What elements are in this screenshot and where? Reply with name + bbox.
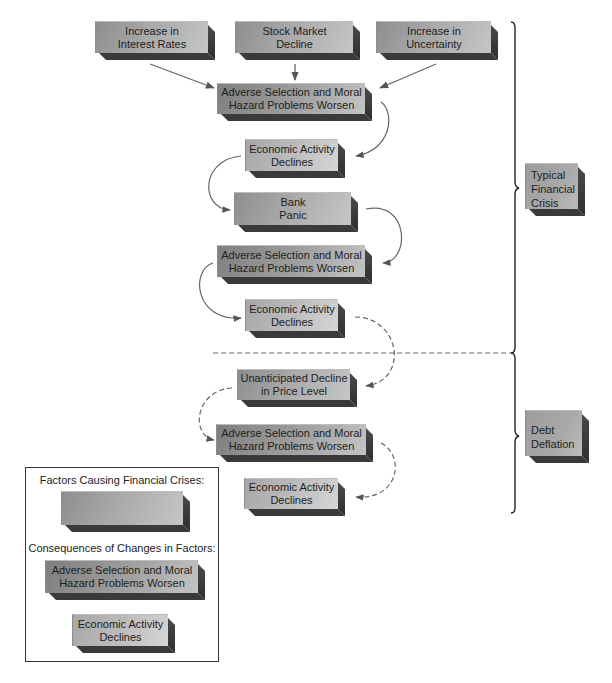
stage-label-typical-financial-crisis: TypicalFinancialCrisis: [525, 163, 578, 209]
legend-sample-economic-activity: Economic ActivityDeclines: [72, 614, 168, 646]
box-label-line: Adverse Selection and Moral: [221, 249, 362, 262]
legend-factors-title: Factors Causing Financial Crises:: [25, 474, 219, 486]
legend-sample-line: Adverse Selection and Moral: [52, 564, 193, 577]
arrow-bank-to-asmh2: [366, 208, 402, 263]
factor-box-uncertainty: Increase inUncertainty: [376, 21, 491, 53]
stage-label-line: Typical: [531, 168, 575, 182]
box-adverse-selection-1: Adverse Selection and MoralHazard Proble…: [217, 83, 365, 114]
box-economic-activity-1: Economic ActivityDeclines: [245, 139, 338, 171]
arrow-ead2-to-udpl: [355, 317, 394, 386]
box-economic-activity-2: Economic ActivityDeclines: [245, 299, 338, 331]
stage-label-line: Crisis: [531, 196, 575, 210]
factor-label-line: Increase in: [406, 25, 462, 38]
box-label-line: Panic: [279, 209, 307, 222]
factor-label-line: Increase in: [118, 25, 186, 38]
box-label-line: Economic Activity: [249, 303, 335, 316]
box-label-line: Economic Activity: [249, 481, 335, 494]
box-label-line: Adverse Selection and Moral: [221, 427, 362, 440]
box-label-line: Hazard Problems Worsen: [221, 440, 362, 453]
box-label-line: Economic Activity: [249, 143, 335, 156]
legend-sample-line: Economic Activity: [78, 618, 164, 631]
box-label-line: Declines: [249, 156, 335, 169]
box-label-line: Adverse Selection and Moral: [221, 86, 362, 99]
legend-sample-line: Hazard Problems Worsen: [52, 577, 193, 590]
legend-factor-swatch: [61, 491, 183, 525]
arrow-interest-to-asmh: [150, 64, 214, 88]
box-label-line: Unanticipated Decline: [240, 372, 347, 385]
box-adverse-selection-2: Adverse Selection and MoralHazard Proble…: [217, 245, 365, 277]
brace-debt-deflation: [511, 353, 519, 513]
stage-label-line: Financial: [531, 182, 575, 196]
box-unanticipated-decline-price-level: Unanticipated Declinein Price Level: [237, 369, 350, 400]
factor-label-line: Uncertainty: [406, 38, 462, 51]
legend-sample-line: Declines: [78, 631, 164, 644]
brace-typical-financial-crisis: [511, 22, 519, 353]
factor-box-stock-market: Stock MarketDecline: [235, 21, 353, 53]
factor-label-line: Interest Rates: [118, 38, 186, 51]
box-label-line: Declines: [249, 316, 335, 329]
stage-label-line: Deflation: [531, 437, 574, 451]
box-label-line: Declines: [249, 494, 335, 507]
factor-label-line: Decline: [262, 38, 326, 51]
box-label-line: Hazard Problems Worsen: [221, 262, 362, 275]
box-label-line: in Price Level: [240, 385, 347, 398]
box-adverse-selection-3: Adverse Selection and MoralHazard Proble…: [216, 424, 366, 455]
factor-box-interest-rates: Increase inInterest Rates: [95, 21, 208, 53]
stage-label-debt-deflation: DebtDeflation: [525, 410, 582, 456]
box-bank-panic: BankPanic: [234, 192, 351, 225]
factor-label-line: Stock Market: [262, 25, 326, 38]
box-label-line: Hazard Problems Worsen: [221, 99, 362, 112]
legend-consequences-title: Consequences of Changes in Factors:: [25, 542, 219, 554]
stage-label-line: Debt: [531, 423, 574, 437]
box-label-line: Bank: [279, 196, 307, 209]
arrow-uncertainty-to-asmh: [380, 64, 436, 88]
box-economic-activity-3: Economic ActivityDeclines: [244, 478, 338, 509]
legend-sample-adverse-selection: Adverse Selection and MoralHazard Proble…: [45, 560, 198, 593]
